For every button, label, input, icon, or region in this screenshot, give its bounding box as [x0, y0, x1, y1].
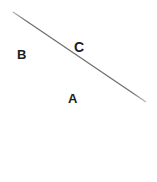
diagonal-line-c	[13, 12, 146, 102]
diagram-svg	[0, 0, 157, 182]
label-c: C	[74, 40, 84, 54]
geometry-diagram: A B C	[0, 0, 157, 182]
label-a: A	[68, 92, 77, 105]
label-b: B	[17, 48, 26, 61]
